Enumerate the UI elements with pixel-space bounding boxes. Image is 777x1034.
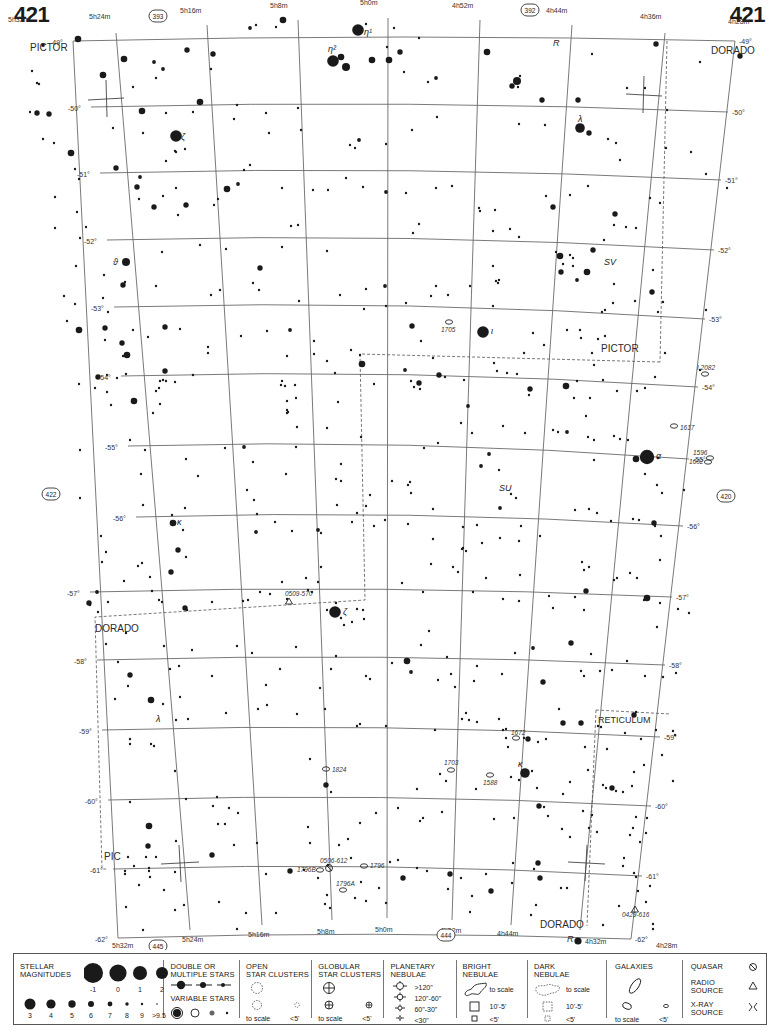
star — [407, 484, 409, 486]
constellation-label: DORADO — [95, 623, 139, 634]
star — [326, 360, 328, 362]
star — [197, 475, 199, 477]
star — [626, 87, 628, 89]
star — [493, 362, 495, 364]
xray-source-icon — [749, 1003, 757, 1011]
star — [633, 771, 635, 773]
star — [300, 129, 302, 131]
magnitude-dots-small — [18, 996, 178, 1012]
star — [560, 720, 565, 725]
star — [640, 450, 654, 464]
star — [572, 265, 574, 267]
star — [510, 776, 512, 778]
size-label: <5' — [566, 1016, 575, 1024]
star — [509, 228, 511, 230]
star — [389, 861, 391, 863]
magnitude-label: 6 — [89, 1012, 93, 1020]
star — [359, 822, 361, 824]
star — [514, 652, 516, 654]
star — [645, 901, 647, 903]
svg-text:1596: 1596 — [693, 449, 708, 456]
star — [545, 738, 547, 740]
star — [404, 658, 411, 665]
star — [524, 432, 526, 434]
magnitude-label: -1 — [90, 986, 96, 994]
star — [434, 76, 438, 80]
galaxy-object: 1617 — [670, 424, 694, 431]
star — [461, 548, 463, 550]
star — [285, 473, 287, 475]
star — [410, 380, 412, 382]
declination-line — [136, 514, 683, 526]
star — [320, 532, 322, 534]
star — [247, 599, 249, 601]
svg-text:1588: 1588 — [483, 779, 498, 786]
star — [257, 265, 262, 270]
legend-title: NEBULAE — [390, 971, 435, 979]
star — [447, 294, 449, 296]
star — [159, 380, 161, 382]
star — [569, 194, 571, 196]
star — [162, 368, 167, 373]
dec-label: -53° — [91, 305, 104, 312]
star — [144, 449, 146, 451]
star-designation: R — [567, 934, 574, 944]
star — [643, 599, 645, 601]
star — [652, 269, 654, 271]
legend-title: STAR CLUSTERS — [318, 971, 381, 979]
star — [373, 383, 375, 385]
star — [365, 23, 367, 25]
star — [463, 379, 465, 381]
star — [591, 53, 593, 55]
star — [155, 285, 157, 287]
star — [495, 280, 497, 282]
ra-label: 5h0m — [360, 0, 378, 6]
star — [352, 24, 364, 36]
star — [403, 368, 407, 372]
star — [602, 924, 604, 926]
star — [644, 675, 646, 677]
star — [441, 811, 443, 813]
star — [125, 373, 127, 375]
star — [317, 581, 319, 583]
star — [165, 380, 167, 382]
dec-label: -56° — [687, 523, 700, 530]
star — [566, 329, 568, 331]
legend-other-sources: QUASAR RADIO SOURCE X-RAY SOURCE — [683, 960, 766, 1018]
star — [588, 566, 590, 568]
star — [635, 876, 637, 878]
star — [326, 250, 328, 252]
star — [597, 338, 599, 340]
variable-star-symbols — [170, 1006, 240, 1020]
star — [210, 294, 212, 296]
star — [178, 665, 180, 667]
declination-line — [107, 238, 714, 250]
star — [405, 302, 407, 304]
star — [175, 719, 177, 721]
star — [323, 782, 328, 787]
magnitude-label: 7 — [108, 1012, 112, 1020]
star — [661, 754, 663, 756]
star — [362, 186, 364, 188]
star — [149, 876, 151, 878]
star — [121, 56, 128, 63]
star — [478, 207, 480, 209]
dec-label: -62° — [95, 936, 108, 943]
star — [469, 911, 471, 913]
star — [662, 301, 664, 303]
star — [104, 339, 106, 341]
svg-text:1672: 1672 — [511, 729, 526, 736]
star-chart[interactable]: 1705I 2082161715961602182417031672158817… — [0, 0, 777, 950]
star — [393, 27, 395, 29]
star — [117, 661, 119, 663]
star-designation: η¹ — [364, 27, 372, 37]
right-ascension-line — [116, 33, 190, 930]
star — [558, 269, 563, 274]
star — [383, 284, 387, 288]
star — [547, 815, 549, 817]
star — [476, 721, 478, 723]
star — [635, 816, 637, 818]
star — [151, 590, 153, 592]
star — [129, 738, 131, 740]
legend-title: VARIABLE STARS — [170, 995, 234, 1003]
